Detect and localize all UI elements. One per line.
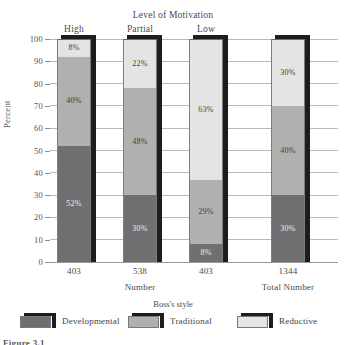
bar-segment-label: 30% (280, 69, 295, 77)
legend-swatch (20, 316, 51, 328)
bar-stack: 30%48%22% (123, 39, 157, 262)
bar-segment-label: 48% (132, 138, 147, 146)
bar-shadow-right (223, 35, 228, 262)
legend-item-developmental[interactable]: Developmental (20, 313, 120, 328)
y-tick-label: 70 (17, 101, 43, 111)
bar-segment-developmental: 8% (189, 244, 223, 262)
y-tick-label: 0 (17, 257, 43, 267)
bar-segment-reductive: 22% (123, 39, 157, 88)
group-label-low: Low (176, 24, 236, 34)
bar-shadow-top (61, 35, 95, 39)
legend-swatch-wrap (128, 313, 164, 328)
bar-segment-reductive: 63% (189, 39, 223, 179)
bar-segment-label: 30% (280, 225, 295, 233)
bar-shadow-right (305, 35, 310, 262)
legend-swatch (237, 316, 268, 328)
plot-area: 52%40%8%30%48%22%8%29%63%30%40%30% (50, 39, 338, 262)
figure-caption: Figure 3.1 (3, 338, 45, 345)
bar-segment-label: 8% (200, 249, 211, 257)
bar-segment-traditional: 48% (123, 88, 157, 195)
legend-swatch-shadow-right (52, 313, 56, 328)
x-axis-title-total: Total Number (243, 282, 333, 292)
legend-swatch-shadow-right (160, 313, 164, 328)
x-value-label: 538 (110, 266, 170, 276)
y-tick-label: 100 (17, 34, 43, 44)
y-tick-label: 60 (17, 123, 43, 133)
bar-segment-developmental: 52% (57, 146, 91, 262)
legend-swatch-wrap (237, 313, 273, 328)
legend-title: Boss's style (0, 299, 346, 309)
bar-segment-label: 63% (198, 106, 213, 114)
bar-shadow-right (91, 35, 96, 262)
bar-segment-traditional: 29% (189, 180, 223, 245)
bar-segment-label: 8% (68, 44, 79, 52)
x-value-label: 403 (44, 266, 104, 276)
legend-item-traditional[interactable]: Traditional (128, 313, 212, 328)
y-tick-label: 10 (17, 235, 43, 245)
bar-segment-label: 29% (198, 208, 213, 216)
bar-segment-developmental: 30% (123, 195, 157, 262)
bar-segment-developmental: 30% (271, 195, 305, 262)
x-axis-title: Number (100, 282, 180, 292)
bar-segment-traditional: 40% (57, 57, 91, 146)
bar-segment-label: 40% (66, 97, 81, 105)
bar-segment-label: 30% (132, 225, 147, 233)
bar-segment-label: 40% (280, 147, 295, 155)
bar-stack: 30%40%30% (271, 39, 305, 262)
bar-shadow-top (193, 35, 227, 39)
chart-title: Level of Motivation (0, 10, 346, 20)
legend-label: Reductive (279, 316, 317, 326)
x-value-label: 403 (176, 266, 236, 276)
y-tick-label: 50 (17, 146, 43, 156)
legend-swatch-shadow-right (269, 313, 273, 328)
bar-segment-label: 22% (132, 60, 147, 68)
legend-item-reductive[interactable]: Reductive (237, 313, 317, 328)
bar-segment-label: 52% (66, 200, 81, 208)
y-tick-label: 40 (17, 168, 43, 178)
group-label-partial: Partial (110, 24, 170, 34)
legend-swatch (128, 316, 159, 328)
bar-segment-traditional: 40% (271, 106, 305, 195)
group-label-high: High (44, 24, 104, 34)
chart-container: Level of Motivation Percent HighPartialL… (0, 0, 346, 345)
bar-segment-reductive: 30% (271, 39, 305, 106)
y-tick-label: 30 (17, 190, 43, 200)
y-tick-label: 90 (17, 56, 43, 66)
bar-segment-reductive: 8% (57, 39, 91, 57)
bar-shadow-top (127, 35, 161, 39)
y-tick-label: 20 (17, 212, 43, 222)
bar-stack: 8%29%63% (189, 39, 223, 262)
bar-stack: 52%40%8% (57, 39, 91, 262)
legend-swatch-wrap (20, 313, 56, 328)
y-tick-label: 80 (17, 79, 43, 89)
bar-shadow-right (157, 35, 162, 262)
bar-shadow-top (275, 35, 309, 39)
x-value-label: 1344 (258, 266, 318, 276)
y-axis-title: Percent (2, 100, 12, 128)
legend-label: Traditional (170, 316, 212, 326)
legend-label: Developmental (62, 316, 120, 326)
